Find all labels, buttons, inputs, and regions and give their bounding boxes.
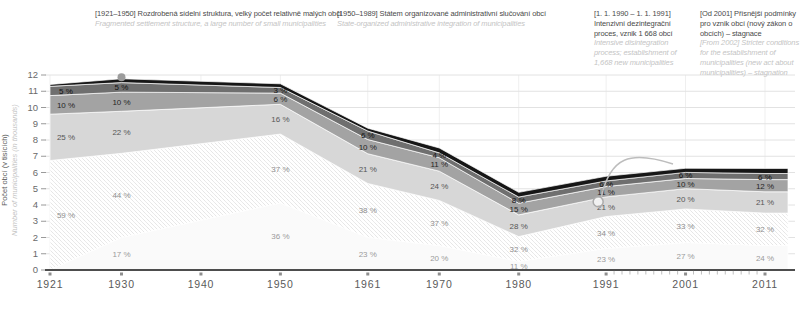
svg-text:11 %: 11 % [597,188,615,197]
svg-text:0: 0 [33,264,38,275]
svg-text:32 %: 32 % [756,225,774,234]
svg-text:4: 4 [33,199,38,210]
svg-text:9: 9 [33,118,38,129]
svg-text:20 %: 20 % [676,195,694,204]
svg-text:24 %: 24 % [430,182,448,191]
svg-text:8: 8 [33,134,38,145]
annotation-1990-1991: [1. 1. 1990 – 1. 1. 1991] Intenzivní dez… [594,9,694,68]
svg-text:25 %: 25 % [57,133,75,142]
svg-text:1921: 1921 [37,278,64,290]
svg-text:1: 1 [33,248,38,259]
svg-text:10 %: 10 % [57,101,75,110]
svg-text:44 %: 44 % [112,191,130,200]
svg-text:20 %: 20 % [430,254,448,263]
low-1990-open-dot [593,197,603,207]
svg-text:21 %: 21 % [359,165,377,174]
svg-text:2: 2 [33,232,38,243]
svg-text:1991: 1991 [593,278,620,290]
svg-text:28 %: 28 % [510,222,528,231]
annotation-1950-1989-cz: [1950–1989] Státem organizované administ… [337,9,546,19]
annotation-1950-1989-en: State-organized administrative integrati… [337,19,546,29]
svg-text:23 %: 23 % [359,250,377,259]
svg-text:7: 7 [33,150,38,161]
svg-text:5: 5 [33,183,38,194]
svg-text:2011: 2011 [752,278,778,290]
svg-text:12: 12 [27,69,38,80]
svg-text:10 %: 10 % [676,180,694,189]
svg-text:6 %: 6 % [361,131,375,140]
svg-text:3: 3 [33,215,38,226]
svg-text:27 %: 27 % [676,252,694,261]
svg-text:17 %: 17 % [112,250,130,259]
svg-text:1980: 1980 [505,278,532,290]
svg-text:37 %: 37 % [271,165,289,174]
peak-1930-dot [118,73,126,81]
svg-text:1961: 1961 [354,278,381,290]
svg-text:10: 10 [27,102,38,113]
annotation-1921-1950-en: Fragmented settlement structure, a large… [95,19,342,29]
x-axis: 1921193019401950196119701980199120012011 [37,270,795,290]
annotation-from-2001-en: [From 2002] Stricter conditions for the … [700,38,802,77]
svg-text:6: 6 [33,167,38,178]
svg-text:21 %: 21 % [756,198,774,207]
annotation-1990-1991-cz: [1. 1. 1990 – 1. 1. 1991] Intenzivní dez… [594,9,694,38]
y-axis-title-en: Number of municipalities (in thousands) [10,72,20,268]
svg-text:10 %: 10 % [112,98,130,107]
svg-text:3 %: 3 % [273,86,287,95]
svg-text:2001: 2001 [672,278,699,290]
svg-text:11: 11 [28,85,38,96]
svg-text:16 %: 16 % [271,115,289,124]
svg-text:4 %: 4 % [432,151,446,160]
svg-text:6 %: 6 % [679,171,693,180]
y-axis-ticks: 0123456789101112 [27,69,46,275]
svg-text:24 %: 24 % [756,254,774,263]
svg-text:59 %: 59 % [57,211,75,220]
annotation-from-2001: [Od 2001] Přísnější podmínky pro vznik o… [700,9,802,77]
svg-text:32 %: 32 % [510,245,528,254]
svg-text:36 %: 36 % [271,232,289,241]
annotation-1990-1991-en: Intensive disintegration process; establ… [594,38,694,67]
annotation-1921-1950-cz: [1921–1950] Rozdrobená sídelní struktura… [95,9,342,19]
svg-text:1930: 1930 [108,278,135,290]
svg-text:22 %: 22 % [112,128,130,137]
svg-text:5 %: 5 % [59,87,73,96]
svg-text:37 %: 37 % [430,219,448,228]
y-axis-title-cz: Počet obcí (v tisících) [0,72,10,268]
svg-text:1970: 1970 [426,278,453,290]
svg-text:15 %: 15 % [510,205,528,214]
municipality-structure-figure: Počet obcí (v tisících) Number of munici… [0,0,804,318]
svg-text:1940: 1940 [188,278,215,290]
svg-text:33 %: 33 % [676,222,694,231]
svg-text:10 %: 10 % [359,143,377,152]
svg-text:34 %: 34 % [597,229,615,238]
svg-text:6 %: 6 % [758,173,772,182]
svg-text:12 %: 12 % [756,182,774,191]
annotation-from-2001-cz: [Od 2001] Přísnější podmínky pro vznik o… [700,9,802,38]
svg-text:11 %: 11 % [430,160,448,169]
svg-text:1950: 1950 [267,278,294,290]
svg-text:5 %: 5 % [115,83,129,92]
svg-text:6 %: 6 % [273,95,287,104]
svg-text:23 %: 23 % [597,255,615,264]
annotation-1950-1989: [1950–1989] Státem organizované administ… [337,9,546,29]
annotation-1921-1950: [1921–1950] Rozdrobená sídelní struktura… [95,9,342,29]
svg-text:8 %: 8 % [512,196,526,205]
y-axis-title: Počet obcí (v tisících) Number of munici… [0,72,24,268]
svg-text:38 %: 38 % [359,206,377,215]
